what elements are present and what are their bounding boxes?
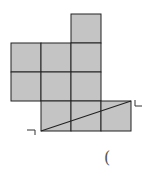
net-square xyxy=(41,72,71,101)
cube-net-diagram xyxy=(0,0,155,172)
net-square xyxy=(11,72,41,101)
net-square xyxy=(41,43,71,72)
left-corner-mark-icon xyxy=(27,130,35,135)
net-square xyxy=(71,14,101,43)
net-square xyxy=(71,43,101,72)
net-square xyxy=(71,72,101,101)
net-square xyxy=(11,43,41,72)
answer-paren: ( xyxy=(104,148,110,167)
right-corner-mark-icon xyxy=(135,100,142,106)
